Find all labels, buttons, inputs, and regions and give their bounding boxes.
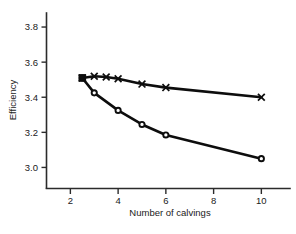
series-x [79, 73, 265, 101]
series-layer [79, 73, 265, 161]
y-tick-label: 3.6 [25, 57, 38, 68]
y-tick-label: 3.8 [25, 21, 38, 32]
y-axis-ticks: 3.03.23.43.63.8 [25, 21, 47, 172]
efficiency-vs-calvings-chart: 3.03.23.43.63.8 246810 Efficiency Number… [0, 0, 296, 234]
marker-circle-icon [139, 122, 144, 127]
caption-strip [0, 224, 296, 234]
x-tick-label: 6 [163, 195, 168, 206]
marker-square-icon [79, 75, 85, 81]
x-tick-label: 2 [68, 195, 73, 206]
marker-circle-icon [92, 90, 97, 95]
x-axis-ticks: 246810 [68, 189, 267, 207]
chart-figure: 3.03.23.43.63.8 246810 Efficiency Number… [0, 0, 296, 234]
y-tick-label: 3.2 [25, 127, 38, 138]
x-tick-label: 8 [211, 195, 216, 206]
y-axis-title: Efficiency [7, 80, 18, 121]
series-line [82, 78, 261, 159]
y-tick-label: 3.0 [25, 162, 38, 173]
marker-circle-icon [116, 108, 121, 113]
x-tick-label: 4 [115, 195, 120, 206]
x-tick-label: 10 [256, 195, 267, 206]
x-axis-title: Number of calvings [129, 207, 211, 218]
marker-circle-icon [163, 132, 168, 137]
marker-circle-icon [259, 156, 264, 161]
y-tick-label: 3.4 [25, 92, 38, 103]
